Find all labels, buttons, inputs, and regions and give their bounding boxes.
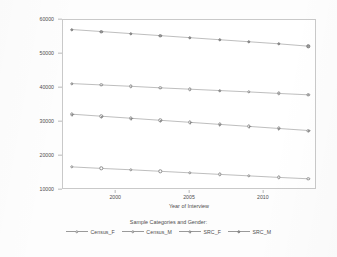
y-tick-mark (58, 87, 62, 88)
x-axis-labels: 200020052010 (62, 190, 316, 204)
y-tick-mark (58, 19, 62, 20)
chart-figure: Predicted Mean Head Wage/Salary 1997 to … (0, 0, 337, 257)
legend-marker-census_m (131, 230, 134, 233)
y-tick-label: 50000 (40, 50, 54, 56)
x-tick-mark (189, 190, 190, 193)
series-lines (63, 20, 316, 189)
y-tick-label: 20000 (40, 152, 54, 158)
x-tick-mark (115, 190, 116, 193)
x-tick-label: 2005 (183, 194, 195, 200)
y-tick-mark (58, 155, 62, 156)
legend-item-src_f[interactable]: SRC_F (179, 229, 221, 235)
legend-label-src_f: SRC_F (203, 229, 221, 235)
y-tick-label: 30000 (40, 118, 54, 124)
legend-swatch-src_f (179, 229, 201, 234)
legend-item-census_f[interactable]: Census_F (66, 229, 115, 235)
y-tick-mark (58, 189, 62, 190)
y-tick-label: 10000 (40, 186, 54, 192)
legend-title: Sample Categories and Gender: (0, 219, 337, 226)
y-tick-mark (58, 121, 62, 122)
legend-item-src_m[interactable]: SRC_M (228, 229, 271, 235)
legend-swatch-src_m (228, 229, 250, 234)
legend-marker-census_f (75, 230, 78, 233)
y-tick-label: 40000 (40, 84, 54, 90)
x-tick-mark (262, 190, 263, 193)
x-axis-title: Year of Interview (62, 203, 316, 209)
legend-swatch-census_m (122, 229, 144, 234)
chart-legend: Sample Categories and Gender: Census_FCe… (0, 219, 337, 235)
legend-marker-src_f (188, 230, 191, 233)
y-tick-mark (58, 53, 62, 54)
x-tick-label: 2000 (109, 194, 121, 200)
legend-items: Census_FCensus_MSRC_FSRC_M (0, 229, 337, 235)
x-tick-label: 2010 (257, 194, 269, 200)
plot-area (62, 19, 316, 189)
legend-swatch-census_f (66, 229, 88, 234)
scanned-chart-page: Predicted Mean Head Wage/Salary 1997 to … (0, 0, 337, 257)
legend-item-census_m[interactable]: Census_M (122, 229, 172, 235)
legend-marker-src_m (237, 230, 240, 233)
y-tick-label: 60000 (40, 16, 54, 22)
y-axis-labels: 100002000030000400005000060000 (0, 19, 58, 189)
legend-label-census_m: Census_M (146, 229, 172, 235)
legend-label-src_m: SRC_M (252, 229, 271, 235)
legend-label-census_f: Census_F (90, 229, 114, 235)
